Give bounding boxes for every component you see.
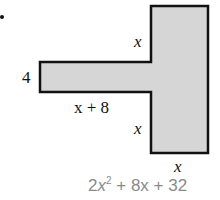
bullet-dot [0, 15, 4, 19]
area-expression: 2x2 + 8x + 32 [88, 175, 187, 195]
label-bottom-width: x [173, 157, 182, 176]
label-upper-side: x [133, 32, 142, 51]
label-arm-length-text: x + 8 [74, 98, 109, 117]
expr-rest: + 8x + 32 [112, 176, 188, 195]
composite-figure-diagram: 4 x x + 8 x x 2x2 + 8x + 32 [0, 0, 220, 200]
label-left-height: 4 [22, 68, 31, 87]
expr-coefficient: 2 [88, 176, 97, 195]
label-arm-length: x + 8 [74, 98, 109, 117]
t-shape-polygon [40, 6, 208, 153]
expr-variable: x [96, 176, 106, 195]
label-lower-side: x [133, 119, 142, 138]
